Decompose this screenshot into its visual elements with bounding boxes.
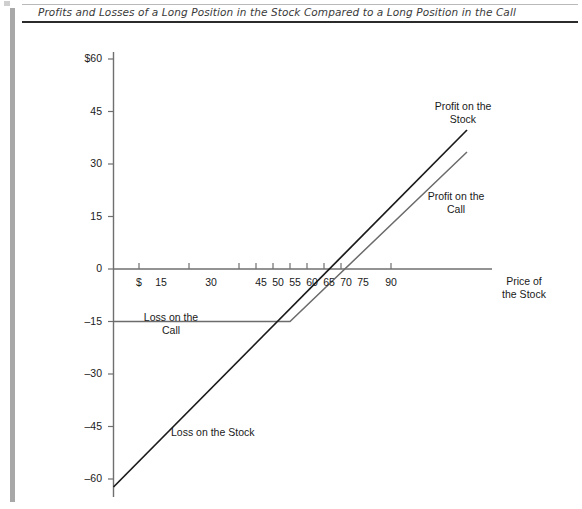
x-axis-title-line1: Price of [489, 275, 559, 288]
y-tick-label-15: 15 [62, 210, 102, 222]
annotation-profit-stock-line1: Profit on the [418, 100, 508, 113]
series-line-long-call [114, 152, 468, 322]
annotation-profit-call-line2: Call [411, 203, 501, 216]
annotation-profit-on-the-stock: Profit on the Stock [418, 100, 508, 125]
annotation-profit-stock-line2: Stock [418, 113, 508, 126]
x-tick-label-dollar: $ [129, 276, 149, 288]
x-tick-label-30: 30 [201, 276, 221, 288]
annotation-loss-stock-line1: Loss on the Stock [171, 426, 291, 439]
y-tick-label-neg60: –60 [62, 472, 102, 484]
y-tick-label-30: 30 [62, 157, 102, 169]
annotation-profit-call-line1: Profit on the [411, 190, 501, 203]
y-tick-label-neg15: –15 [62, 315, 102, 327]
x-tick-label-90: 90 [381, 276, 401, 288]
chart-page: Profits and Losses of a Long Position in… [0, 0, 582, 509]
x-tick-label-75: 75 [353, 276, 373, 288]
y-tick-label-neg30: –30 [62, 367, 102, 379]
x-axis-ticks [139, 263, 391, 269]
x-axis-title-line2: the Stock [489, 288, 559, 301]
annotation-profit-on-the-call: Profit on the Call [411, 190, 501, 215]
y-tick-label-0: 0 [62, 262, 102, 274]
chart-plot-area [0, 0, 582, 509]
y-tick-label-45: 45 [62, 105, 102, 117]
annotation-loss-on-the-call: Loss on the Call [126, 311, 216, 336]
y-tick-label-60: $60 [62, 52, 102, 64]
annotation-loss-call-line1: Loss on the [126, 311, 216, 324]
y-tick-label-neg45: –45 [62, 420, 102, 432]
x-tick-label-15: 15 [151, 276, 171, 288]
annotation-loss-call-line2: Call [126, 324, 216, 337]
annotation-loss-on-the-stock: Loss on the Stock [171, 426, 291, 439]
x-axis-title: Price of the Stock [489, 275, 559, 300]
y-axis-ticks [108, 59, 114, 479]
